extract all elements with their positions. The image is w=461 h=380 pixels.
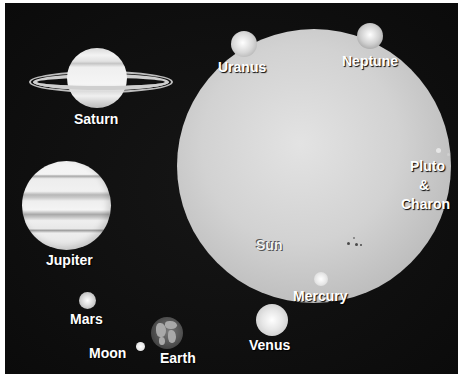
venus-label: Venus: [249, 338, 290, 352]
charon-label: Charon: [401, 197, 450, 211]
earth-continent: [159, 337, 165, 345]
mars-label: Mars: [70, 312, 103, 326]
sunspot: [353, 237, 355, 239]
mars: [79, 292, 96, 309]
jupiter-label: Jupiter: [46, 253, 93, 267]
mercury-label: Mercury: [293, 289, 347, 303]
ampersand-label: &: [419, 178, 429, 192]
sunspot: [360, 244, 362, 246]
sunspot: [347, 242, 350, 245]
earth-continent: [165, 321, 177, 329]
charon: [447, 153, 450, 156]
saturn-label: Saturn: [74, 112, 118, 126]
earth-label: Earth: [160, 351, 196, 365]
uranus-label: Uranus: [218, 60, 266, 74]
pluto: [436, 148, 441, 153]
moon-label: Moon: [89, 346, 126, 360]
neptune: [357, 23, 383, 49]
venus: [256, 304, 288, 336]
saturn: [67, 48, 127, 108]
moon: [136, 342, 145, 351]
sun-label: Sun: [256, 238, 282, 252]
pluto-label: Pluto: [410, 159, 445, 173]
earth-continent: [168, 330, 176, 343]
neptune-label: Neptune: [342, 54, 398, 68]
earth: [151, 317, 183, 349]
uranus: [231, 31, 257, 57]
jupiter: [22, 161, 111, 250]
solar-system-diagram: Sun Saturn Jupiter Uranus Neptune Pluto …: [5, 3, 458, 374]
sunspot: [355, 243, 358, 246]
mercury: [314, 272, 328, 286]
